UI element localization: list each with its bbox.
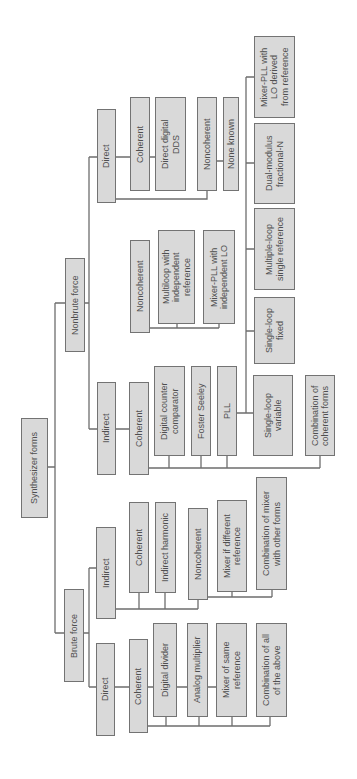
node-synthesizer-forms: Synthesizer forms	[21, 418, 48, 518]
node-nonbrute-force: Nonbrute force	[65, 258, 85, 352]
node-brute-direct-coherent: Coherent	[129, 639, 148, 733]
node-indirect-harmonic: Indirect harmonic	[155, 502, 176, 593]
node-pll: PLL	[217, 366, 237, 456]
node-brute-direct: Direct	[96, 643, 115, 736]
node-brute-force: Brute force	[64, 589, 84, 682]
node-analog-multiplier: Analog multiplier	[187, 623, 208, 717]
node-brute-indirect: Indirect	[96, 527, 116, 619]
node-mixer-same-reference: Mixer of same reference	[216, 623, 247, 717]
node-digital-divider: Digital divider	[153, 623, 177, 717]
node-nonbrute-indirect: Indirect	[97, 382, 116, 475]
node-digital-counter-comparator: Digital counter comparator	[154, 366, 185, 456]
node-combination-all-above: Combination of all of the above	[256, 623, 287, 717]
node-foster-seeley: Foster Seeley	[191, 366, 211, 456]
node-brute-indirect-noncoherent: Noncoherent	[188, 508, 208, 600]
node-combination-mixer-other-forms: Combination of mixer with other forms	[256, 477, 287, 590]
node-combination-coherent-forms: Combination of coherent forms	[305, 375, 335, 456]
node-brute-indirect-coherent: Coherent	[129, 502, 149, 593]
synthesizer-forms-diagram: Synthesizer forms Nonbrute force Brute f…	[0, 0, 357, 779]
node-mixer-pll-independent-lo: Mixer-PLL with independent LO	[203, 230, 235, 324]
node-nonbrute-indirect-noncoherent: Noncoherent	[130, 240, 150, 333]
node-mixer-pll-lo-derived: Mixer-PLL with LO derived from reference	[254, 36, 295, 118]
node-mixer-different-reference: Mixer if different reference	[217, 500, 247, 592]
node-none-known: None known	[223, 97, 239, 191]
node-multiloop-independent-reference: Multiloop with independent reference	[158, 230, 195, 324]
node-single-loop-variable: Single-loop variable	[253, 375, 293, 456]
node-dual-modulus-fractional-n: Dual-modulus fractional-N	[254, 123, 295, 204]
node-single-loop-fixed: Single-loop fixed	[254, 297, 295, 364]
node-nonbrute-direct: Direct	[97, 109, 116, 203]
node-multiple-loop-single-reference: Multiple-loop single reference	[254, 208, 295, 290]
node-nonbrute-direct-noncoherent: Noncoherent	[197, 97, 217, 191]
node-direct-digital-dds: Direct digital DDS	[155, 97, 186, 191]
node-nonbrute-direct-coherent: Coherent	[130, 97, 150, 191]
node-nonbrute-indirect-coherent: Coherent	[129, 382, 149, 475]
